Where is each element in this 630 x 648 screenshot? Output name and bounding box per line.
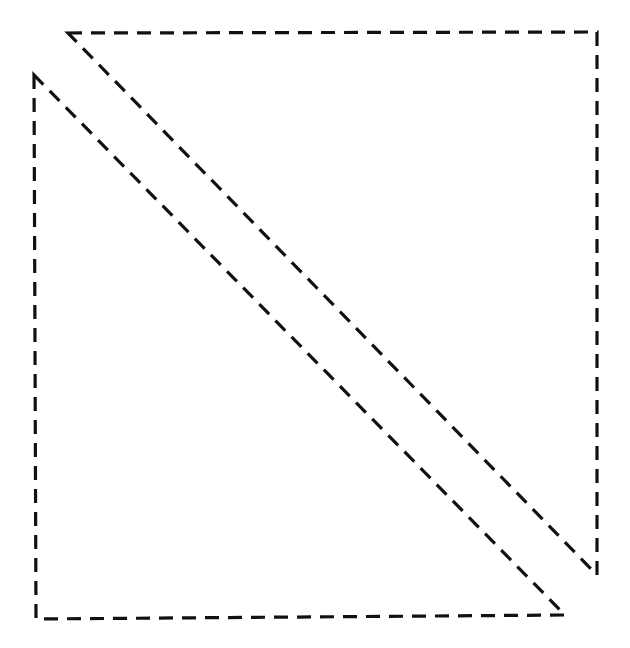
- upper-right-triangle: [68, 32, 597, 575]
- diagram-canvas: [0, 0, 630, 648]
- lower-left-triangle: [34, 75, 565, 619]
